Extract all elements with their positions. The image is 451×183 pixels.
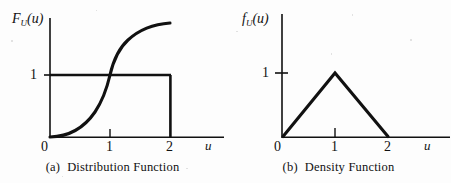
y-tick-label-1-a: 1: [30, 68, 37, 82]
y-axis-label-a-main: F: [12, 11, 21, 26]
x-tick-label-0-a: 0: [41, 140, 48, 154]
y-tick-label-1-b: 1: [262, 66, 269, 80]
panel-distribution-function: FU(u) 0 1 2 1 u (a)Distribution Function: [0, 0, 225, 183]
panel-density-function: fU(u) 0 1 2 1 u (b)Density Function: [226, 0, 451, 183]
y-axis-label-b-arg: (u): [252, 11, 268, 26]
figure-root: FU(u) 0 1 2 1 u (a)Distribution Function…: [0, 0, 451, 183]
caption-b-tag: (b): [283, 160, 298, 174]
x-tick-label-1-a: 1: [106, 140, 113, 154]
y-axis-label-a-arg: (u): [27, 11, 43, 26]
y-axis-label-b: fU(u): [242, 12, 269, 28]
caption-b: (b)Density Function: [226, 160, 451, 175]
caption-a-tag: (a): [46, 160, 60, 174]
x-tick-label-2-a: 2: [166, 140, 173, 154]
cdf-curve: [50, 23, 170, 137]
pdf-triangle: [283, 73, 388, 137]
x-axis-label-b: u: [424, 139, 431, 152]
caption-b-text: Density Function: [305, 160, 395, 174]
x-tick-label-0-b: 0: [274, 140, 281, 154]
x-tick-label-1-b: 1: [331, 140, 338, 154]
x-axis-label-a: u: [205, 139, 212, 152]
x-tick-label-2-b: 2: [384, 140, 391, 154]
y-axis-label-a: FU(u): [12, 12, 43, 28]
caption-a-text: Distribution Function: [67, 160, 179, 174]
caption-a: (a)Distribution Function: [0, 160, 225, 175]
